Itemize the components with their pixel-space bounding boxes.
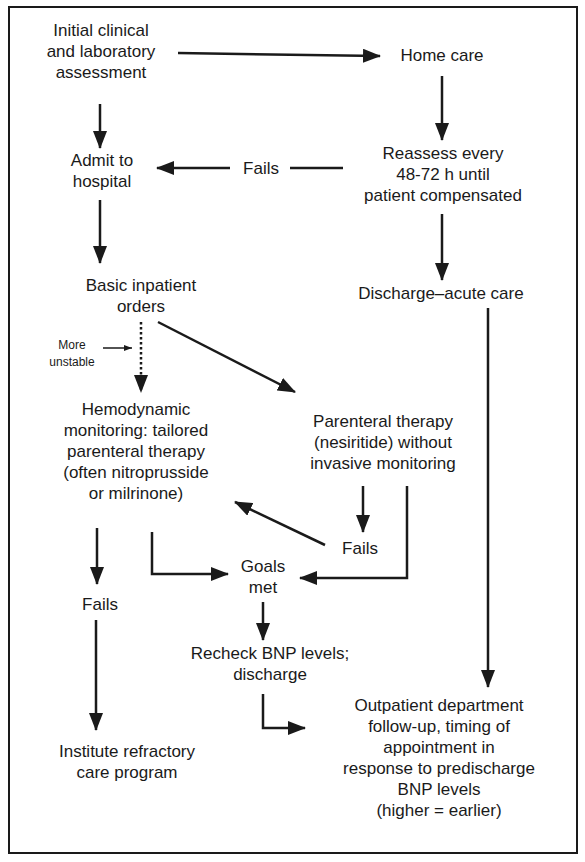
node-text-line: (often nitroprusside [63, 462, 209, 483]
node-text-line: Admit to [71, 150, 133, 171]
node-text-line: (nesiritide) without [310, 432, 456, 453]
arrow-basic-to-parenteral [158, 322, 295, 392]
node-text-line: monitoring: tailored [63, 420, 209, 441]
node-text-line: orders [86, 296, 197, 317]
arrow-initial-to-home [178, 53, 380, 56]
label-more-unstable: More unstable [49, 337, 94, 371]
node-text-line: Institute refractory [59, 741, 195, 762]
node-text-line: unstable [49, 354, 94, 371]
node-text-line: care program [59, 762, 195, 783]
node-text-line: Basic inpatient [86, 275, 197, 296]
node-text-line: or milrinone) [63, 483, 209, 504]
node-text-line: assessment [47, 62, 156, 83]
node-text-line: (higher = earlier) [343, 800, 535, 821]
arrow-recheck-to-outpatient [263, 694, 305, 728]
arrow-parenteral-to-goals [300, 486, 407, 578]
node-text-line: Reassess every [364, 143, 522, 164]
node-text-line: invasive monitoring [310, 453, 456, 474]
node-parenteral-nesiritide: Parenteral therapy (nesiritide) without … [310, 411, 456, 474]
node-admit-hospital: Admit to hospital [71, 150, 133, 192]
node-fails-top: Fails [243, 158, 279, 179]
node-text-line: appointment in [343, 737, 535, 758]
node-refractory-care: Institute refractory care program [59, 741, 195, 783]
node-basic-orders: Basic inpatient orders [86, 275, 197, 317]
node-text-line: patient compensated [364, 185, 522, 206]
node-text-line: response to predischarge [343, 758, 535, 779]
node-reassess: Reassess every 48-72 h until patient com… [364, 143, 522, 206]
node-text-line: 48-72 h until [364, 164, 522, 185]
node-text-line: Initial clinical [47, 20, 156, 41]
node-text-line: Fails [243, 158, 279, 179]
node-text-line: Home care [400, 45, 483, 66]
node-text-line: parenteral therapy [63, 441, 209, 462]
node-outpatient-followup: Outpatient department follow-up, timing … [343, 695, 535, 821]
arrow-hemodynamic-to-goals [152, 532, 228, 574]
node-text-line: Fails [82, 594, 118, 615]
node-text-line: BNP levels [343, 779, 535, 800]
node-fails-left: Fails [82, 594, 118, 615]
node-text-line: and laboratory [47, 41, 156, 62]
node-fails-middle: Fails [342, 538, 378, 559]
node-text-line: Parenteral therapy [310, 411, 456, 432]
node-text-line: discharge [191, 664, 349, 685]
node-text-line: Recheck BNP levels; [191, 643, 349, 664]
node-text-line: Discharge–acute care [358, 283, 523, 304]
node-hemodynamic-monitoring: Hemodynamic monitoring: tailored parente… [63, 399, 209, 504]
arrow-fails-to-hemodynamic [235, 502, 325, 545]
node-text-line: Goals [241, 556, 285, 577]
node-text-line: Hemodynamic [63, 399, 209, 420]
node-text-line: Outpatient department [343, 695, 535, 716]
node-recheck-bnp: Recheck BNP levels; discharge [191, 643, 349, 685]
node-text-line: Fails [342, 538, 378, 559]
node-text-line: More [49, 337, 94, 354]
node-discharge-acute: Discharge–acute care [358, 283, 523, 304]
node-initial-assessment: Initial clinical and laboratory assessme… [47, 20, 156, 83]
node-text-line: hospital [71, 171, 133, 192]
node-text-line: met [241, 577, 285, 598]
node-goals-met: Goals met [241, 556, 285, 598]
node-home-care: Home care [400, 45, 483, 66]
node-text-line: follow-up, timing of [343, 716, 535, 737]
